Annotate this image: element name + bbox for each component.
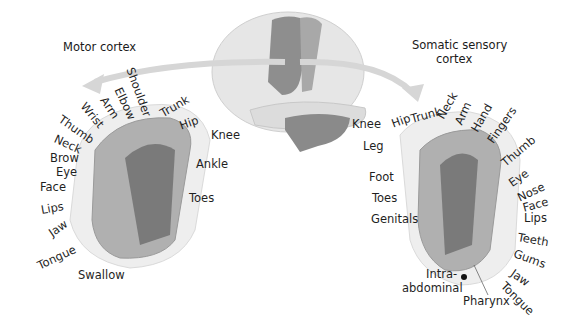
motor-label-brow: Brow: [50, 152, 79, 164]
sensory-label-knee: Knee: [352, 118, 381, 130]
motor-label-swallow: Swallow: [78, 269, 125, 281]
motor-label-eye: Eye: [56, 166, 77, 178]
motor-label-toes: Toes: [189, 192, 214, 204]
sensory-cortex-title-line2: cortex: [436, 52, 472, 66]
motor-label-lips: Lips: [40, 200, 65, 216]
motor-label-knee: Knee: [211, 129, 240, 141]
motor-label-face: Face: [40, 181, 66, 193]
motor-label-ankle: Ankle: [196, 158, 228, 170]
sensory-label-lips: Lips: [524, 212, 547, 224]
sensory-label-leg: Leg: [363, 140, 384, 152]
sensory-label-intra: Intra-: [426, 268, 457, 280]
sensory-label-foot: Foot: [369, 171, 394, 183]
sensory-cortex-title-line1: Somatic sensory: [412, 38, 507, 52]
sensory-label-toes: Toes: [372, 192, 397, 204]
sensory-label-abdominal: abdominal: [402, 282, 463, 294]
motor-cortex-title: Motor cortex: [63, 40, 136, 54]
sensory-label-genitals: Genitals: [371, 213, 418, 225]
sensory-cortex-slice: [400, 112, 520, 295]
sensory-label-pharynx: Pharynx: [463, 295, 510, 307]
